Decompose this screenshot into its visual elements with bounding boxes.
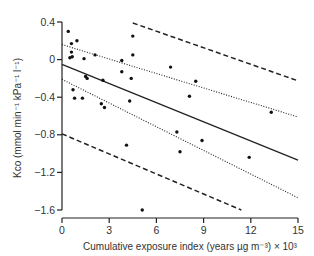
data-point — [178, 150, 181, 153]
y-tick-label: −1.2 — [34, 166, 55, 178]
trend-lines — [62, 23, 298, 210]
y-tick-label: 0 — [49, 53, 55, 65]
prediction-lower-line — [62, 134, 241, 210]
x-tick-label: 0 — [59, 224, 65, 236]
data-point — [81, 96, 84, 99]
data-point — [194, 80, 197, 83]
data-point — [70, 42, 73, 45]
x-tick-label: 9 — [201, 224, 207, 236]
x-axis: 03691215 — [59, 218, 304, 236]
data-point — [130, 77, 133, 80]
data-point — [85, 77, 88, 80]
data-point — [141, 208, 144, 211]
data-point — [120, 59, 123, 62]
data-point — [188, 95, 191, 98]
data-points — [67, 30, 273, 212]
data-point — [75, 39, 78, 42]
data-point — [169, 65, 172, 68]
data-point — [270, 111, 273, 114]
data-point — [71, 55, 74, 58]
y-axis-label: Kco (mmol min⁻¹ kPa⁻¹ l⁻¹) — [12, 58, 23, 178]
y-tick-label: −0.8 — [34, 128, 55, 140]
scatter-chart: 0.40−0.4−0.8−1.2−1.6 03691215 Cumulative… — [0, 0, 314, 256]
data-point — [131, 34, 134, 37]
x-tick-label: 6 — [153, 224, 159, 236]
data-point — [200, 139, 203, 142]
data-point — [93, 53, 96, 56]
data-point — [120, 70, 123, 73]
y-tick-label: −1.6 — [34, 204, 55, 216]
x-tick-label: 3 — [106, 224, 112, 236]
regression-line — [62, 64, 298, 160]
data-point — [131, 53, 134, 56]
data-point — [100, 102, 103, 105]
data-point — [70, 50, 73, 53]
x-axis-label: Cumulative exposure index (years µg m⁻³)… — [83, 241, 298, 252]
y-tick-label: −0.4 — [34, 91, 55, 103]
data-point — [73, 96, 76, 99]
data-point — [175, 130, 178, 133]
x-tick-label: 15 — [292, 224, 304, 236]
x-tick-label: 12 — [245, 224, 257, 236]
y-axis: 0.40−0.4−0.8−1.2−1.6 — [34, 16, 62, 216]
data-point — [82, 57, 85, 60]
data-point — [128, 99, 131, 102]
data-point — [67, 30, 70, 33]
confidence-upper-line — [62, 45, 298, 117]
y-tick-label: 0.4 — [40, 16, 55, 28]
confidence-lower-line — [62, 79, 298, 197]
data-point — [71, 88, 74, 91]
data-point — [248, 156, 251, 159]
data-point — [101, 79, 104, 82]
prediction-upper-line — [133, 23, 297, 80]
data-point — [125, 143, 128, 146]
data-point — [103, 106, 106, 109]
